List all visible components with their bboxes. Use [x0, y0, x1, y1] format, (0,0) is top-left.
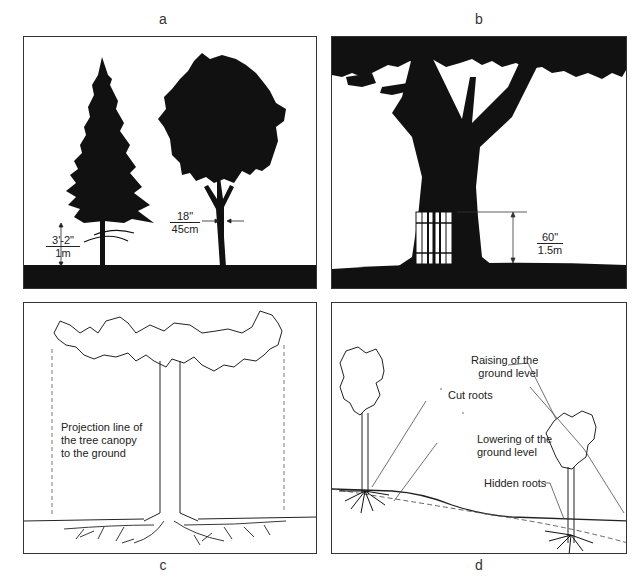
panel-d-illustration	[332, 303, 627, 554]
panel-b: 60" 1.5m	[331, 36, 627, 289]
ground	[332, 263, 627, 289]
canopy-icon	[332, 37, 627, 79]
tree-trunk-icon	[144, 361, 198, 521]
roots-icon	[64, 521, 286, 545]
right-tree-canopy-icon	[546, 411, 596, 469]
projection-note: Projection line of the tree canopy to th…	[61, 421, 142, 460]
panel-d: Raising of the ground level Cut roots Lo…	[331, 302, 627, 554]
original-ground-line	[332, 489, 627, 543]
current-ground-line	[332, 489, 627, 521]
right-tree-trunk-icon	[568, 467, 574, 543]
cut-roots-label: Cut roots	[448, 389, 493, 402]
panel-label-d: d	[464, 557, 494, 573]
panel-a: 3'-2" 1m 18" 45cm	[23, 36, 317, 289]
height-label: 3'-2" 1m	[46, 234, 80, 259]
roots-icon	[339, 491, 593, 554]
ground	[24, 265, 317, 289]
canopy-outline-icon	[54, 311, 282, 371]
trunk-icon	[388, 57, 542, 273]
panel-label-c: c	[148, 557, 178, 573]
left-tree-canopy-icon	[340, 347, 384, 415]
lowering-ground-label: Lowering of the ground level	[477, 433, 552, 459]
trunk-width-label: 18" 45cm	[170, 210, 200, 235]
panel-label-a: a	[148, 11, 178, 27]
panel-c: Projection line of the tree canopy to th…	[23, 302, 317, 554]
panel-label-b: b	[464, 11, 494, 27]
panel-b-illustration	[332, 37, 627, 289]
guard-height-label: 60" 1.5m	[537, 231, 563, 256]
trunk-guard-icon	[416, 212, 452, 264]
ground-line	[24, 517, 317, 521]
left-tree-trunk-icon	[362, 413, 368, 493]
raising-ground-label: Raising of the ground level	[471, 354, 538, 380]
hidden-roots-label: Hidden roots	[484, 477, 546, 490]
